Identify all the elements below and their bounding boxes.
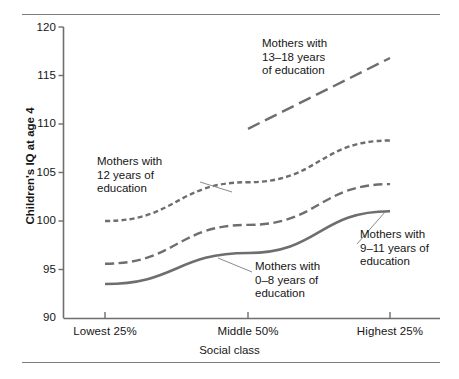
x-tick-label-middle: Middle 50% <box>203 325 293 337</box>
x-tick-label-highest: Highest 25% <box>345 325 435 337</box>
x-axis-ticks <box>105 312 390 318</box>
y-tick-label-95: 95 <box>30 263 56 275</box>
y-tick-label-90: 90 <box>30 311 56 323</box>
leader-line-0-8-years <box>218 258 252 272</box>
x-tick-label-lowest: Lowest 25% <box>60 325 150 337</box>
series-label-0-8-years: Mothers with 0–8 years of education <box>255 260 320 301</box>
y-axis-title: Children's IQ at age 4 <box>24 96 36 236</box>
leader-line-12-years <box>200 182 232 192</box>
series-label-13-18-years: Mothers with 13–18 years of education <box>262 37 327 78</box>
line-chart-plot <box>0 0 459 379</box>
x-axis-title: Social class <box>0 344 459 356</box>
series-label-9-11-years: Mothers with 9–11 years of education <box>360 228 429 269</box>
y-tick-label-120: 120 <box>30 21 56 33</box>
series-line <box>105 211 390 284</box>
y-tick-label-115: 115 <box>30 69 56 81</box>
series-label-12-years: Mothers with 12 years of education <box>97 155 162 196</box>
figure-container: 120 115 110 105 100 95 90 Lowest 25% Mid… <box>0 0 459 379</box>
